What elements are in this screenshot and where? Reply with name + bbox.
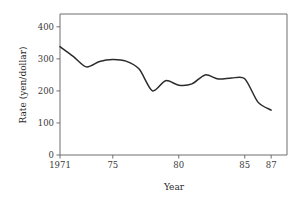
x-tick-label: 85	[239, 160, 250, 170]
x-tick-label: 80	[173, 160, 184, 170]
line-chart: 0100200300400 197175808587 Year Rate (ye…	[0, 0, 300, 198]
y-tick-label: 0	[49, 150, 54, 160]
y-tick-label: 400	[38, 22, 54, 32]
x-tick-label: 87	[266, 160, 277, 170]
y-tick-label: 200	[38, 86, 54, 96]
y-tick-label: 300	[38, 54, 54, 64]
x-tick-label: 75	[107, 160, 118, 170]
x-axis-title: Year	[163, 182, 185, 192]
y-axis-title: Rate (yen/dollar)	[18, 46, 28, 123]
chart-page: 0100200300400 197175808587 Year Rate (ye…	[0, 0, 300, 198]
y-tick-label: 100	[38, 118, 54, 128]
x-tick-label: 1971	[49, 160, 71, 170]
